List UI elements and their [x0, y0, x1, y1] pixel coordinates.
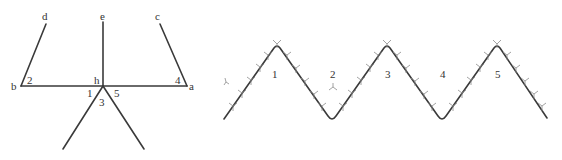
left-diagram: d e c b h a 2 4 1 5 3: [11, 10, 194, 149]
angle-5: 5: [114, 87, 120, 99]
region-3: 3: [385, 68, 391, 80]
region-5: 5: [495, 68, 501, 80]
label-a: a: [189, 80, 194, 92]
label-b: b: [11, 80, 17, 92]
leg-right: [103, 86, 144, 149]
label-d: d: [42, 10, 48, 22]
region-2: 2: [330, 68, 336, 80]
label-c: c: [155, 10, 160, 22]
line-ac: [160, 24, 187, 86]
angle-4: 4: [175, 74, 181, 86]
figure: d e c b h a 2 4 1 5 3: [0, 0, 562, 160]
label-e: e: [100, 10, 105, 22]
angle-2: 2: [27, 74, 33, 86]
line-bd: [21, 24, 46, 86]
angle-1: 1: [87, 87, 93, 99]
leg-left: [63, 86, 103, 149]
angle-3: 3: [99, 96, 105, 108]
region-4: 4: [440, 68, 446, 80]
zigzag-line: [224, 46, 547, 119]
region-1: 1: [272, 68, 278, 80]
right-diagram: 1 2 3 4 5: [224, 40, 547, 119]
label-h: h: [94, 74, 100, 86]
